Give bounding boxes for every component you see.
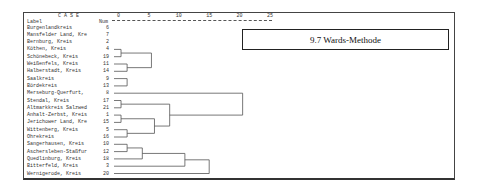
chart-title: 9.7 Wards-Methode [310, 35, 381, 45]
chart-title-box: 9.7 Wards-Methode [242, 29, 449, 50]
